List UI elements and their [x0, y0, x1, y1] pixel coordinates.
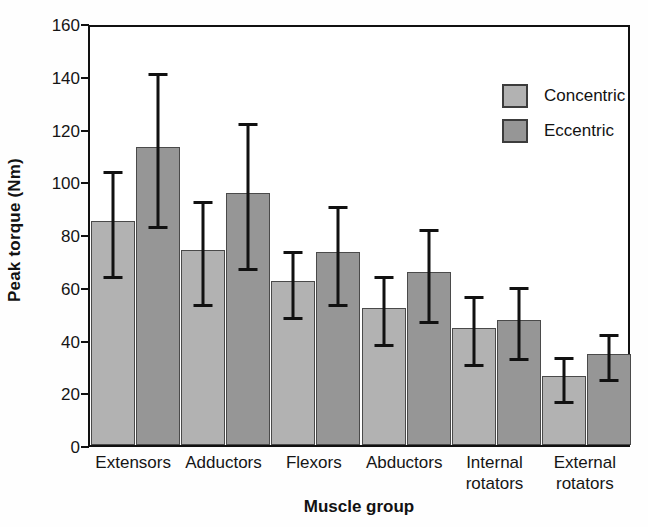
error-bar-line: [202, 201, 205, 307]
x-tick-label: External rotators: [554, 452, 616, 495]
error-bar-cap-upper: [103, 171, 122, 174]
x-tick-label: Internal rotators: [466, 452, 524, 495]
error-bar-line: [247, 123, 250, 271]
error-bar-cap-lower: [555, 401, 574, 404]
x-tick-label: Flexors: [286, 452, 342, 473]
error-bar-cap-lower: [419, 321, 438, 324]
error-bar-cap-lower: [465, 364, 484, 367]
error-bar-cap-lower: [600, 379, 619, 382]
error-bar-cap-upper: [419, 229, 438, 232]
legend-item[interactable]: Eccentric: [502, 118, 625, 144]
error-bar-cap-upper: [555, 357, 574, 360]
error-bar-line: [563, 357, 566, 404]
y-tick-label: 140: [28, 69, 80, 86]
error-bar-cap-upper: [510, 287, 529, 290]
y-tick-label: 80: [28, 228, 80, 245]
legend-swatch-eccentric: [502, 119, 528, 143]
error-bar-cap-upper: [600, 334, 619, 337]
error-bar-cap-upper: [194, 201, 213, 204]
y-axis-title: Peak torque (Nm): [0, 0, 30, 460]
error-bar-cap-upper: [465, 296, 484, 299]
y-tick-label: 20: [28, 386, 80, 403]
y-tick-label: 120: [28, 122, 80, 139]
error-bar-line: [111, 171, 114, 279]
error-bar-cap-lower: [103, 276, 122, 279]
y-tick-mark: [81, 24, 89, 26]
y-tick-mark: [81, 393, 89, 395]
error-bar-cap-upper: [329, 206, 348, 209]
y-tick-mark: [81, 446, 89, 448]
error-bar-line: [382, 276, 385, 347]
error-bar-cap-lower: [510, 358, 529, 361]
error-bar-cap-upper: [239, 123, 258, 126]
y-tick-label: 40: [28, 333, 80, 350]
y-tick-label: 0: [28, 439, 80, 456]
legend-label: Concentric: [544, 86, 625, 106]
y-tick-mark: [81, 341, 89, 343]
error-bar-line: [518, 287, 521, 361]
error-bar-cap-upper: [284, 251, 303, 254]
y-axis-title-text: Peak torque (Nm): [5, 158, 25, 302]
y-tick-label: 160: [28, 17, 80, 34]
plot-area: ConcentricEccentric: [88, 25, 630, 447]
y-axis-tick-labels: 020406080100120140160: [28, 0, 80, 460]
error-bar-line: [427, 229, 430, 324]
error-bar-cap-lower: [284, 317, 303, 320]
y-tick-mark: [81, 130, 89, 132]
error-bar-line: [156, 73, 159, 229]
error-bar-cap-upper: [148, 73, 167, 76]
error-bar-cap-lower: [148, 226, 167, 229]
legend-label: Eccentric: [544, 121, 614, 141]
error-bar-cap-lower: [329, 304, 348, 307]
error-bar-cap-lower: [239, 268, 258, 271]
legend-swatch-concentric: [502, 84, 528, 108]
legend: ConcentricEccentric: [502, 83, 625, 153]
x-tick-label: Extensors: [95, 452, 171, 473]
x-axis-tick-labels: ExtensorsAdductorsFlexorsAbductorsIntern…: [88, 452, 630, 498]
bar-chart-figure: Peak torque (Nm) 020406080100120140160 C…: [0, 0, 648, 527]
y-tick-mark: [81, 182, 89, 184]
x-tick-label: Adductors: [185, 452, 262, 473]
x-tick-label: Abductors: [366, 452, 443, 473]
error-bar-cap-lower: [374, 344, 393, 347]
y-tick-label: 60: [28, 280, 80, 297]
y-tick-mark: [81, 235, 89, 237]
error-bar-cap-upper: [374, 276, 393, 279]
legend-item[interactable]: Concentric: [502, 83, 625, 109]
error-bar-line: [473, 296, 476, 367]
y-tick-label: 100: [28, 175, 80, 192]
error-bar-cap-lower: [194, 304, 213, 307]
y-tick-mark: [81, 77, 89, 79]
error-bar-line: [337, 206, 340, 306]
y-tick-mark: [81, 288, 89, 290]
error-bar-line: [292, 251, 295, 320]
x-axis-title: Muscle group: [88, 497, 630, 517]
error-bar-line: [608, 334, 611, 381]
